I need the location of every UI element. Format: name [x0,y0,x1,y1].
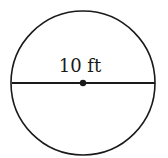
diameter-label: 10 ft [59,55,102,76]
center-point [80,80,86,86]
circle-diagram: 10 ft [0,0,168,158]
